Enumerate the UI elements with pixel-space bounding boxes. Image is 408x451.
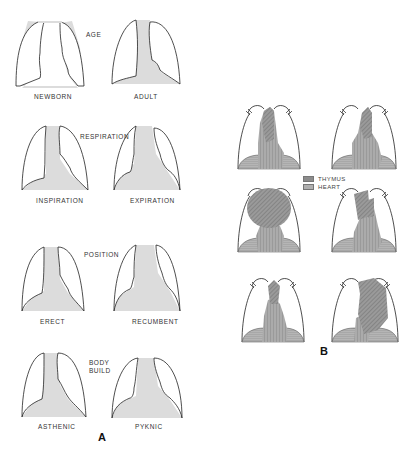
label-pyknic: PYKNIC <box>135 423 163 430</box>
label-expiration: EXPIRATION <box>130 197 175 204</box>
label-recumbent: RECUMBENT <box>132 318 179 325</box>
thymus-heart-diagram-3 <box>236 186 302 254</box>
label-inspiration: INSPIRATION <box>36 197 84 204</box>
group-title-position: POSITION <box>84 251 119 259</box>
panel-b-letter: B <box>320 345 328 357</box>
erect-lung-diagram <box>20 245 86 313</box>
group-title-body: BODY <box>89 359 111 367</box>
group-title-build: BUILD <box>89 367 111 375</box>
adult-lung-diagram <box>110 18 182 88</box>
group-title-body-build: BODY BUILD <box>89 359 111 375</box>
thymus-heart-diagram-6 <box>330 274 400 344</box>
label-erect: ERECT <box>40 318 65 325</box>
legend-item-thymus: THYMUS <box>303 175 346 183</box>
thymus-heart-diagram-5 <box>240 276 306 344</box>
label-newborn: NEWBORN <box>34 93 72 100</box>
thymus-heart-diagram-2 <box>330 103 398 171</box>
thymus-heart-diagram-1 <box>236 103 302 171</box>
pyknic-lung-diagram <box>110 356 184 420</box>
thymus-swatch <box>303 176 314 182</box>
thymus-heart-diagram-4 <box>330 186 398 254</box>
heart-swatch <box>303 184 314 190</box>
legend-label-thymus: THYMUS <box>318 176 346 182</box>
panel-a-letter: A <box>98 431 106 443</box>
group-title-respiration: RESPIRATION <box>80 133 129 141</box>
newborn-lung-diagram <box>14 18 86 88</box>
label-adult: ADULT <box>134 93 158 100</box>
asthenic-lung-diagram <box>20 351 88 419</box>
label-asthenic: ASTHENIC <box>38 423 76 430</box>
recumbent-lung-diagram <box>112 243 182 313</box>
group-title-age: AGE <box>86 31 101 39</box>
